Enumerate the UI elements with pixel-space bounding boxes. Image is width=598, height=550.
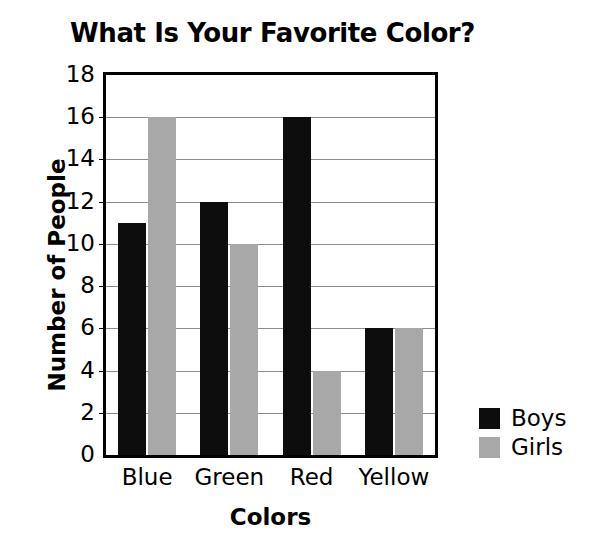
tick-mark <box>99 413 106 414</box>
tick-mark <box>99 328 106 329</box>
bar-yellow-girls <box>395 328 423 455</box>
bar-green-girls <box>230 244 258 455</box>
legend-item-girls[interactable]: Girls <box>479 433 566 462</box>
x-tick-label-red: Red <box>271 464 353 490</box>
bar-blue-girls <box>148 117 176 455</box>
x-tick-label-green: Green <box>188 464 270 490</box>
bar-red-boys <box>283 117 311 455</box>
tick-mark <box>99 117 106 118</box>
bar-blue-boys <box>118 223 146 455</box>
tick-mark <box>99 202 106 203</box>
legend: BoysGirls <box>479 404 566 462</box>
bar-green-boys <box>200 202 228 455</box>
x-tick-label-blue: Blue <box>106 464 188 490</box>
y-tick-label: 14 <box>55 147 95 170</box>
bar-red-girls <box>313 371 341 455</box>
x-tick-label-yellow: Yellow <box>353 464 435 490</box>
legend-label: Girls <box>511 436 563 459</box>
tick-mark <box>99 244 106 245</box>
y-tick-label: 8 <box>55 274 95 297</box>
plot-area <box>103 72 438 458</box>
bar-chart: What Is Your Favorite Color? Number of P… <box>0 0 598 550</box>
tick-mark <box>99 159 106 160</box>
y-tick-label: 12 <box>55 190 95 213</box>
legend-swatch-icon <box>479 408 500 429</box>
y-tick-label: 10 <box>55 232 95 255</box>
tick-mark <box>99 286 106 287</box>
chart-title: What Is Your Favorite Color? <box>70 18 430 48</box>
legend-swatch-icon <box>479 437 500 458</box>
y-tick-label: 4 <box>55 359 95 382</box>
y-tick-label: 6 <box>55 316 95 339</box>
x-axis-title: Colors <box>103 504 438 530</box>
y-tick-label: 18 <box>55 63 95 86</box>
y-tick-label: 16 <box>55 105 95 128</box>
y-tick-label: 2 <box>55 401 95 424</box>
bar-yellow-boys <box>365 328 393 455</box>
legend-label: Boys <box>511 407 566 430</box>
y-tick-label: 0 <box>55 443 95 466</box>
legend-item-boys[interactable]: Boys <box>479 404 566 433</box>
tick-mark <box>99 371 106 372</box>
